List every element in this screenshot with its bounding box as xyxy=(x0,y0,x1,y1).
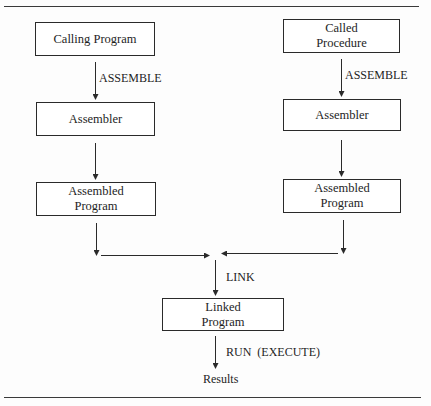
right-assemble-label: ASSEMBLE xyxy=(345,68,408,82)
link-label: LINK xyxy=(226,270,255,284)
flow-diagram: Calling Program ASSEMBLE Assembler Assem… xyxy=(0,0,431,406)
right-assembled-program-box: Assembled Program xyxy=(283,179,401,213)
right-assembler-box: Assembler xyxy=(283,99,401,131)
left-assembled-program-box: Assembled Program xyxy=(36,182,156,216)
left-assemble-label: ASSEMBLE xyxy=(99,71,162,85)
calling-program-box: Calling Program xyxy=(35,22,155,56)
results-label: Results xyxy=(203,372,238,386)
run-execute-label: RUN (EXECUTE) xyxy=(226,345,320,359)
left-assembler-box: Assembler xyxy=(36,102,155,136)
linked-program-box: Linked Program xyxy=(162,298,284,331)
called-procedure-box: Called Procedure xyxy=(283,19,400,53)
